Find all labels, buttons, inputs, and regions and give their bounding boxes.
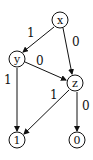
edge-z-one [24,90,69,134]
edge-label-x-z: 0 [72,35,80,49]
edge-label-z-one: 1 [50,88,58,102]
node-y-label: y [13,53,21,66]
edge-x-z [63,28,72,74]
node-x-label: x [57,14,64,27]
edge-label-y-one: 1 [4,73,12,87]
terminal-one-label: 1 [14,134,21,147]
bdd-diagram: 1 0 0 1 1 0 x y z 1 0 [0,0,93,160]
node-z-label: z [72,77,78,90]
edge-label-x-y: 1 [27,26,35,40]
terminal-zero-label: 0 [74,134,81,147]
edge-label-z-zero: 0 [82,99,90,113]
edge-label-y-z: 0 [36,54,44,68]
edge-y-z [25,62,66,80]
